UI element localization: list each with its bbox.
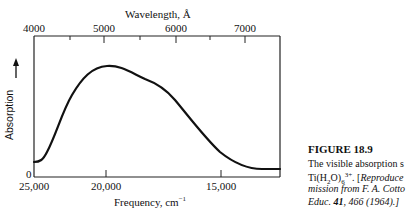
caption-line-1: The visible absorption s (308, 158, 404, 169)
top-tick-label: 4000 (23, 22, 45, 34)
caption-formula-part: Ti(H (308, 172, 327, 183)
top-tick-label: 7000 (234, 22, 256, 34)
caption-italic-text: Reproduce (360, 172, 403, 183)
caption-superscript: 3+ (345, 171, 352, 179)
absorption-curve (34, 66, 280, 169)
bottom-tick-label: 15,000 (206, 180, 236, 192)
caption-citation: , 466 (1964).] (344, 196, 400, 207)
top-tick-label: 5000 (93, 22, 115, 34)
top-axis-label: Wavelength, Å (125, 8, 191, 20)
bottom-tick-label: 20,000 (91, 180, 121, 192)
x-axis-label-exponent: −1 (179, 195, 186, 203)
x-axis-label: Frequency, cm−1 (114, 195, 186, 208)
bottom-tick-label: 25,000 (19, 180, 49, 192)
caption-volume: 41 (331, 196, 344, 207)
top-tick-label: 6000 (165, 22, 187, 34)
bottom-axis-ticks (106, 170, 221, 177)
y-axis-label: Absorption (3, 90, 15, 140)
y-zero-label: 0 (26, 168, 32, 180)
caption-line-3: mission from F. A. Cotto (308, 183, 405, 194)
caption-journal: Educ. (308, 196, 331, 207)
top-axis-ticks (70, 36, 245, 43)
caption-formula-part: O) (331, 172, 342, 183)
caption-line-4: Educ. 41, 466 (1964).] (308, 196, 399, 207)
figure-title: FIGURE 18.9 (308, 144, 373, 155)
y-axis-arrow-icon (13, 58, 19, 78)
x-axis-label-text: Frequency, cm (114, 196, 179, 208)
